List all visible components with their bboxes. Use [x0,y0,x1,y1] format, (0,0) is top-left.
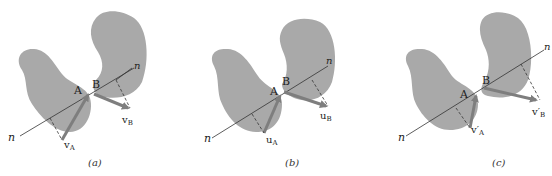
label-point-a: A [73,84,83,97]
label-velocity-a-prime: v′A [470,124,485,137]
caption-a: (a) [88,157,102,168]
panel-b: A B n n uA uB (b) [204,19,335,168]
caption-c: (c) [492,157,506,168]
label-normal-lower: n [8,131,15,144]
panel-c: A B n n v′A v′B (c) [398,12,550,168]
label-normal-upper: n [544,41,550,52]
label-point-a: A [269,85,279,98]
label-velocity-b-prime: v′B [531,106,545,119]
impact-diagram: A B n n vA vB (a) A B n n uA uB (b) A B … [0,0,552,176]
caption-b: (b) [285,157,299,168]
label-normal-upper: n [326,55,332,66]
panel-a: A B n n vA vB (a) [8,11,147,168]
label-point-b: B [482,74,490,87]
label-point-b: B [92,78,100,91]
label-normal-lower: n [398,131,405,144]
label-impulse-b: uB [320,110,332,123]
label-point-a: A [459,88,469,101]
label-normal-lower: n [204,132,211,145]
label-impulse-a: uA [266,134,278,147]
label-velocity-a: vA [63,139,76,152]
label-velocity-b: vB [121,114,133,127]
label-point-b: B [282,75,290,88]
label-normal-upper: n [134,60,140,71]
